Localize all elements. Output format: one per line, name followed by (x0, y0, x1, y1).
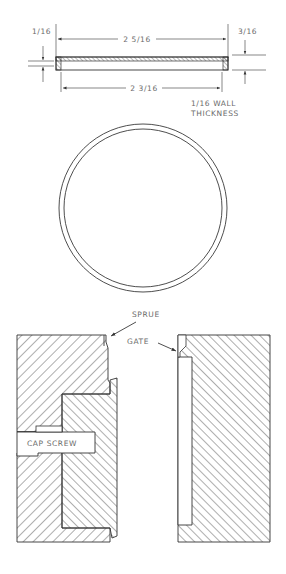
dim-top-thickness: 1/16 (32, 27, 51, 36)
dim-outer-diameter: 2 5/16 (123, 35, 151, 44)
cap-screw-label: CAP SCREW (27, 439, 77, 448)
part-section-view: 2 5/16 2 3/16 1/16 3/16 1/16 WALL THICKN… (28, 24, 266, 118)
ring-outer-circle (59, 124, 227, 292)
mold-right-cavity (178, 357, 192, 525)
mold-right-half (178, 335, 270, 542)
gate-leader-arrow (158, 343, 176, 351)
technical-drawing: 2 5/16 2 3/16 1/16 3/16 1/16 WALL THICKN… (0, 0, 286, 574)
wall-thickness-note-line1: 1/16 WALL (191, 99, 236, 108)
dim-height: 3/16 (238, 27, 257, 36)
gate-label: GATE (127, 337, 149, 346)
mold-labels: SPRUE GATE (111, 310, 176, 351)
sprue-label: SPRUE (132, 310, 160, 319)
part-plan-view (59, 124, 227, 292)
wall-thickness-note-line2: THICKNESS (190, 109, 239, 118)
cap-screw-head (36, 426, 62, 432)
part-cross-section (56, 57, 228, 70)
mold-left-half: CAP SCREW (17, 335, 117, 542)
ring-inner-circle (64, 129, 222, 287)
sprue-leader-arrow (111, 322, 136, 336)
dim-inner-diameter: 2 3/16 (130, 84, 158, 93)
mold-left-insert (62, 378, 117, 538)
